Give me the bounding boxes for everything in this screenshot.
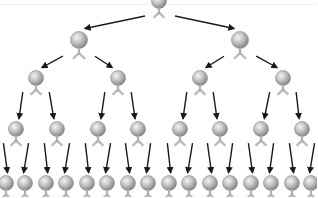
antibody-sphere-icon: [304, 176, 318, 198]
antibody-sphere-icon: [100, 176, 115, 198]
antibody-sphere-icon: [18, 176, 33, 198]
branch-arrow: [85, 16, 145, 29]
branch-arrow: [3, 143, 7, 172]
antibody-sphere-icon: [182, 176, 197, 198]
branch-arrow: [289, 143, 293, 172]
arrows-layer: [3, 16, 314, 173]
branch-arrow: [19, 92, 23, 118]
antibody-sphere-icon: [173, 122, 188, 146]
antibody-sphere-icon: [285, 176, 300, 198]
antibody-sphere-icon: [39, 176, 54, 198]
antibody-sphere-icon: [59, 176, 74, 198]
branch-arrow: [207, 143, 211, 172]
branch-arrow: [229, 143, 233, 172]
branch-arrow: [85, 143, 88, 172]
antibody-sphere-icon: [0, 176, 14, 198]
branch-arrow: [95, 56, 112, 67]
antibody-sphere-icon: [193, 71, 208, 95]
branch-arrow: [42, 56, 63, 67]
branch-arrow: [213, 92, 217, 118]
antibody-sphere-icon: [152, 0, 167, 18]
antibody-sphere-icon: [131, 122, 146, 146]
antibody-sphere-icon: [50, 122, 65, 146]
antibody-sphere-icon: [141, 176, 156, 198]
antibody-sphere-icon: [244, 176, 259, 198]
branch-arrow: [175, 16, 234, 29]
branch-arrow: [49, 92, 54, 118]
antibody-sphere-icon: [213, 122, 228, 146]
antibody-sphere-icon: [121, 176, 136, 198]
antibody-sphere-icon: [203, 176, 218, 198]
branch-arrow: [24, 143, 29, 172]
branch-arrow: [256, 56, 277, 67]
antibody-sphere-icon: [162, 176, 177, 198]
branch-arrow: [296, 92, 299, 118]
branch-arrow: [206, 56, 224, 67]
antibody-sphere-icon: [264, 176, 279, 198]
branch-arrow: [270, 143, 274, 172]
branch-arrow: [106, 143, 111, 172]
antibody-sphere-icon: [71, 32, 88, 59]
branch-arrow: [248, 143, 252, 172]
tree-canvas: [0, 0, 317, 197]
branch-arrow: [125, 143, 129, 172]
branch-arrow: [147, 143, 151, 172]
antibody-sphere-icon: [276, 71, 291, 95]
antibody-sphere-icon: [80, 176, 95, 198]
antibody-sphere-icon: [232, 32, 249, 59]
antibody-sphere-icon: [9, 122, 24, 146]
antibody-sphere-icon: [295, 122, 310, 146]
branch-arrow: [188, 143, 193, 172]
branch-arrow: [183, 92, 187, 118]
antibody-sphere-icon: [223, 176, 238, 198]
branch-arrow: [167, 143, 170, 172]
branch-arrow: [310, 143, 315, 172]
branch-arrow: [131, 92, 135, 118]
antibody-sphere-icon: [29, 71, 44, 95]
branch-arrow: [101, 92, 105, 118]
branching-tree-diagram: [0, 0, 317, 197]
antibody-sphere-icon: [111, 71, 126, 95]
branch-arrow: [264, 92, 269, 118]
antibody-sphere-icon: [91, 122, 106, 146]
branch-arrow: [44, 143, 47, 172]
antibody-sphere-icon: [254, 122, 269, 146]
branch-arrow: [65, 143, 70, 172]
